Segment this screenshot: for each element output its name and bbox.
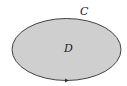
curve-label: C [80, 5, 89, 18]
region-label: D [63, 42, 73, 55]
diagram-canvas: C D [0, 0, 127, 86]
